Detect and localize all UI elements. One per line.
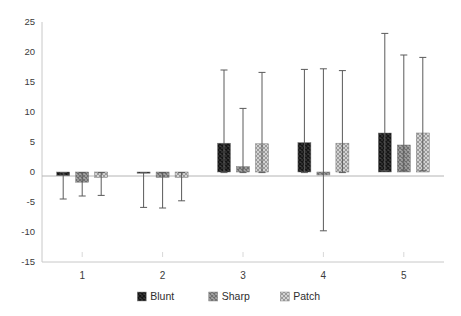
y-tick-label: 0	[30, 166, 35, 177]
legend-item-blunt[interactable]: Blunt	[137, 290, 174, 302]
legend-label: Patch	[293, 290, 320, 302]
x-tick-label: 4	[321, 270, 327, 281]
legend-label: Blunt	[150, 290, 174, 302]
y-tick-label: 10	[24, 106, 35, 117]
legend-swatch-icon	[209, 292, 218, 301]
y-tick-label: 25	[24, 16, 35, 27]
y-tick-label: -5	[27, 196, 35, 207]
y-tick-label: -10	[21, 226, 35, 237]
y-tick-label: -15	[21, 256, 35, 267]
y-tick-label: 20	[24, 46, 35, 57]
y-tick-label: 15	[24, 76, 35, 87]
x-tick-label: 1	[79, 270, 85, 281]
grouped-bar-chart: 2520151050-5-10-15 12345 BluntSharpPatch	[0, 0, 461, 316]
y-tick-label: 5	[30, 136, 35, 147]
chart-container: 2520151050-5-10-15 12345 BluntSharpPatch	[0, 0, 461, 316]
chart-legend: BluntSharpPatch	[137, 290, 320, 302]
legend-swatch-icon	[280, 292, 289, 301]
x-tick-label: 3	[240, 270, 246, 281]
legend-item-patch[interactable]: Patch	[280, 290, 320, 302]
legend-swatch-icon	[137, 292, 146, 301]
x-tick-label: 2	[160, 270, 166, 281]
legend-label: Sharp	[222, 290, 250, 302]
legend-item-sharp[interactable]: Sharp	[209, 290, 250, 302]
x-tick-label: 5	[401, 270, 407, 281]
